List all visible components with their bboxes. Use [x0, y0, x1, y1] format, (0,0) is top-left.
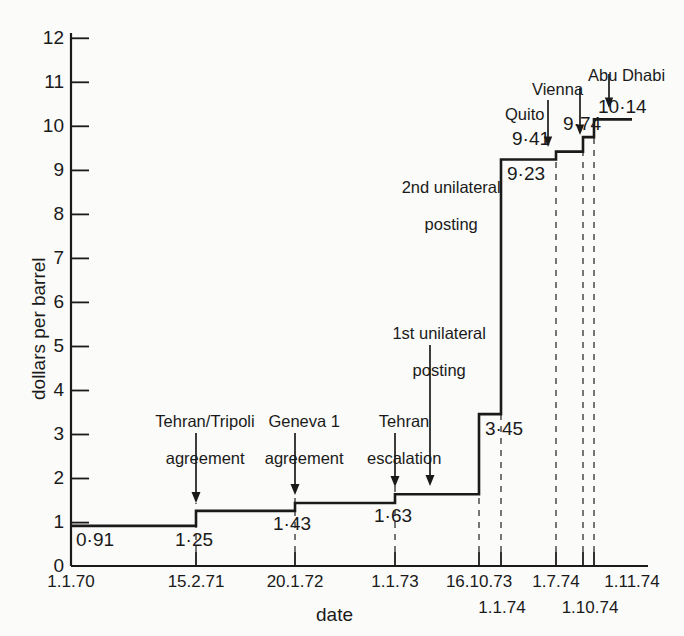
y-tick-marks	[71, 38, 89, 522]
annotation-tehran-escalation-line2: escalation	[367, 449, 441, 467]
annotation-tehran-escalation-line1: Tehran	[379, 412, 429, 430]
annotation-2nd-unilateral-posting-line1: 2nd unilateral	[402, 178, 501, 196]
x-tick-label-1-11-74: 1.11.74	[588, 572, 676, 591]
x-tick-label-1-10-74: 1.10.74	[546, 598, 634, 617]
x-tick-label-16-10-73: 16.10.73	[429, 572, 529, 591]
y-tick-label-7: 7	[30, 247, 64, 268]
y-tick-label-8: 8	[30, 203, 64, 224]
value-label-9-74: 9·74	[563, 113, 601, 134]
annotation-2nd-unilateral-posting: 2nd unilateral posting	[383, 160, 501, 252]
x-tick-label-1-1-74: 1.1.74	[462, 598, 542, 617]
annotation-vienna: Vienna	[532, 80, 583, 98]
value-label-1-43: 1·43	[273, 513, 311, 534]
annotation-1st-unilateral-posting: 1st unilateral posting	[372, 306, 488, 398]
value-label-1-63: 1·63	[374, 505, 412, 526]
y-tick-label-5: 5	[30, 335, 64, 356]
value-label-1-25: 1·25	[175, 529, 213, 550]
value-label-3-45: 3·45	[485, 418, 523, 439]
x-tick-label-15-2-71: 15.2.71	[152, 572, 240, 591]
y-tick-label-3: 3	[30, 423, 64, 444]
y-tick-label-11: 11	[30, 71, 64, 92]
x-axis-title: date	[316, 604, 353, 625]
value-label-0-91: 0·91	[76, 529, 114, 550]
y-tick-label-2: 2	[30, 467, 64, 488]
value-label-9-23: 9·23	[507, 163, 545, 184]
x-tick-marks	[196, 552, 594, 566]
annotation-geneva-1-line2: agreement	[265, 449, 344, 467]
y-tick-label-1: 1	[30, 511, 64, 532]
annotation-2nd-unilateral-posting-line2: posting	[425, 215, 478, 233]
y-tick-label-10: 10	[30, 115, 64, 136]
annotation-1st-unilateral-posting-line2: posting	[413, 361, 466, 379]
x-tick-label-1-7-74: 1.7.74	[517, 572, 595, 591]
x-tick-label-1-1-70: 1.1.70	[31, 572, 111, 591]
annotation-1st-unilateral-posting-line1: 1st unilateral	[392, 324, 486, 342]
annotation-abu-dhabi: Abu Dhabi	[588, 66, 665, 84]
x-tick-label-1-1-73: 1.1.73	[355, 572, 435, 591]
value-label-9-41: 9·41	[512, 128, 550, 149]
y-tick-label-12: 12	[30, 27, 64, 48]
annotation-tehran-escalation: Tehran escalation	[337, 394, 453, 486]
y-tick-label-9: 9	[30, 159, 64, 180]
y-tick-label-6: 6	[30, 291, 64, 312]
x-tick-label-20-1-72: 20.1.72	[251, 572, 339, 591]
value-label-10-14: 10·14	[598, 96, 647, 117]
y-tick-label-4: 4	[30, 379, 64, 400]
oil-price-step-chart: dollars per barrel 12 11 10 9 8 7 6 5 4 …	[0, 0, 684, 636]
annotation-quito: Quito	[505, 105, 544, 123]
annotation-geneva-1-line1: Geneva 1	[268, 412, 340, 430]
